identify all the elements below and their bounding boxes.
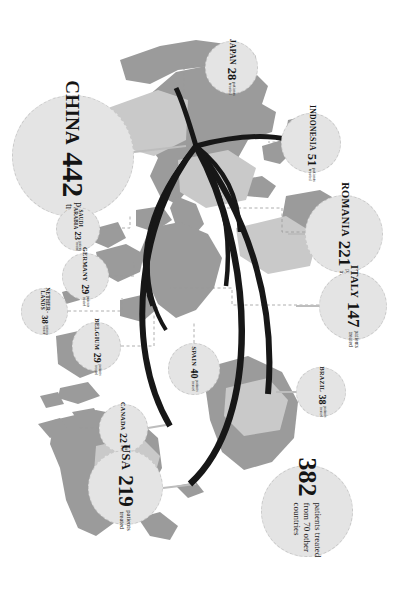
bubble-other-countries[interactable]: 382patients treated from 70 other countr… <box>261 465 353 557</box>
bubble-patient-count: 219 <box>115 475 136 507</box>
bubble-caption-line2: treated <box>82 295 86 306</box>
bubble-patient-count: 38 <box>40 315 49 324</box>
bubble-usa[interactable]: USA219patientstreated <box>88 450 163 525</box>
bubble-caption: patientstreated <box>41 326 47 336</box>
bubble-country-name: USA <box>119 444 132 470</box>
bubble-patient-count: 221 <box>336 240 353 266</box>
bubble-saudi-arabia[interactable]: SAUDI ARABIA23patientstreated <box>56 207 100 251</box>
bubble-romania[interactable]: ROMANIA221patientstreated <box>305 195 383 273</box>
bubble-caption-line2: treated <box>317 406 321 417</box>
bubble-country-name: NETHER-LANDS <box>39 288 49 314</box>
bubble-country-name: BELGIUM <box>93 318 99 350</box>
infographic-canvas: CHINA442patientstreatedJAPAN28patientstr… <box>0 0 403 615</box>
bubble-germany[interactable]: GERMANY29patientstreated <box>62 253 109 300</box>
bubble-italy[interactable]: ITALY147patientstreated <box>319 272 387 340</box>
bubble-caption-line2: treated <box>307 168 311 181</box>
other-countries-count: 382 <box>294 457 320 496</box>
bubble-caption-line1: patients <box>126 510 133 531</box>
bubble-patient-count: 29 <box>81 284 91 294</box>
bubble-caption-line2: treated <box>41 326 44 336</box>
bubble-caption-line2: treated <box>93 364 97 375</box>
bubble-country-name: SAUDI ARABIA <box>73 207 83 229</box>
bubble-japan[interactable]: JAPAN28patientstreated <box>205 41 258 94</box>
bubble-country-name: SPAIN <box>191 346 197 366</box>
bubble-inner: BELGIUM29patientstreated <box>92 318 102 376</box>
bubble-country-name: CANADA <box>120 401 126 430</box>
other-countries-caption: patients treated from 70 other countries <box>291 502 323 564</box>
bubble-country-name: JAPAN <box>228 39 236 65</box>
bubble-indonesia[interactable]: INDONESIA51patientstreated <box>281 113 341 173</box>
bubble-country-name: INDONESIA <box>307 105 315 151</box>
bubble-caption: patientstreated <box>93 364 100 375</box>
bubble-netherlands[interactable]: NETHER-LANDS38patientstreated <box>21 288 68 335</box>
bubble-inner: BRAZIL38patientstreated <box>316 366 326 417</box>
bubble-patient-count: 28 <box>225 68 238 81</box>
bubble-patient-count: 40 <box>189 369 199 379</box>
bubble-caption-line2: treated <box>190 380 194 391</box>
bubble-caption: patientstreated <box>82 295 89 306</box>
bubble-china[interactable]: CHINA442patientstreated <box>12 95 134 217</box>
bubble-inner: GERMANY29patientstreated <box>81 246 91 306</box>
bubble-patient-count: 22 <box>119 433 129 443</box>
bubble-country-name: BRAZIL <box>318 366 324 392</box>
bubble-patient-count: 147 <box>345 302 362 328</box>
bubble-inner: 382patients treated from 70 other countr… <box>291 457 323 564</box>
bubble-inner: SPAIN40patientstreated <box>189 346 199 391</box>
bubble-caption-line2: treated <box>119 510 126 531</box>
bubble-patient-count: 442 <box>58 152 88 197</box>
bubble-caption: patientstreated <box>347 330 358 347</box>
bubble-patient-count: 51 <box>305 153 318 166</box>
bubble-country-name: ITALY <box>348 265 359 298</box>
bubble-caption-line2: treated <box>347 330 353 347</box>
bubble-caption-line1: patients <box>194 380 198 391</box>
bubble-caption-line2: treated <box>75 241 78 251</box>
bubble-inner: USA219patientstreated <box>115 444 136 530</box>
bubble-belgium[interactable]: BELGIUM29patientstreated <box>72 322 121 371</box>
bubble-country-name: CHINA <box>64 80 83 145</box>
bubble-inner: NETHER-LANDS38patientstreated <box>39 288 49 336</box>
bubble-spain[interactable]: SPAIN40patientstreated <box>168 343 220 395</box>
bubble-country-name: GERMANY <box>82 246 88 281</box>
bubble-caption: patientstreated <box>317 406 324 417</box>
bubble-caption: patientstreated <box>119 510 132 531</box>
bubble-inner: SAUDI ARABIA23patientstreated <box>73 207 83 251</box>
bubble-caption: patientstreated <box>190 380 197 391</box>
bubble-caption-line2: treated <box>227 82 231 95</box>
bubble-inner: INDONESIA51patientstreated <box>305 105 318 182</box>
bubble-country-name: ROMANIA <box>339 182 350 237</box>
bubble-patient-count: 38 <box>316 395 326 405</box>
bubble-caption: patientstreated <box>227 82 236 95</box>
bubble-inner: JAPAN28patientstreated <box>225 39 238 96</box>
bubble-caption: patientstreated <box>307 168 316 181</box>
bubble-inner: ITALY147patientstreated <box>345 265 362 348</box>
bubble-patient-count: 29 <box>92 352 102 362</box>
bubble-patient-count: 23 <box>74 231 83 240</box>
bubble-brazil[interactable]: BRAZIL38patientstreated <box>296 367 346 417</box>
